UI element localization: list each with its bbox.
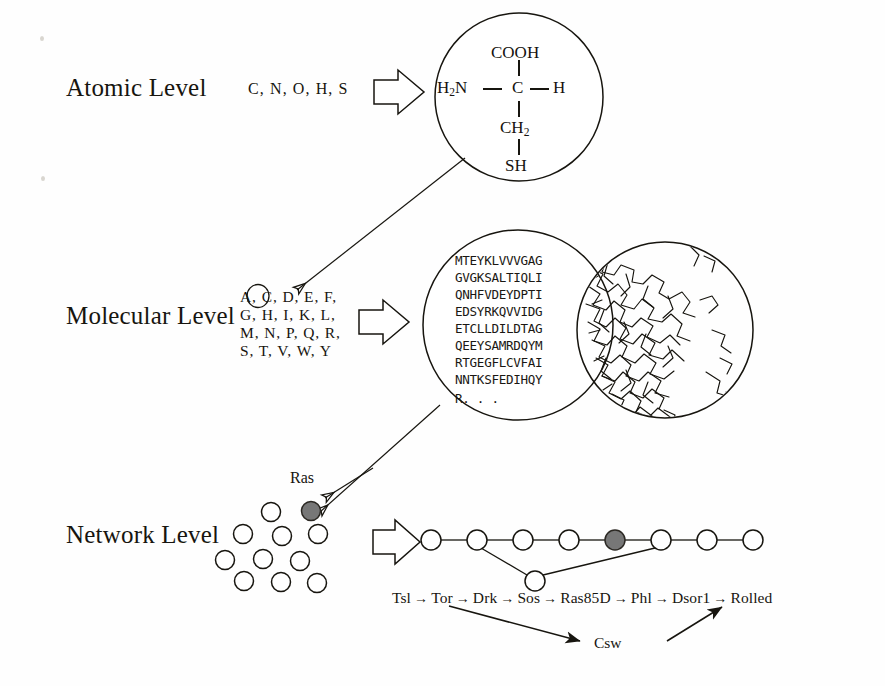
protein-sequence-line: MTEYKLVVVGAG — [455, 253, 542, 270]
chain-node — [697, 530, 717, 550]
pathway-gene-csw: Csw — [594, 634, 622, 652]
scatter-node — [309, 525, 328, 544]
chem-label-sh: SH — [505, 156, 527, 176]
scatter-node — [254, 550, 273, 569]
chain-node — [513, 530, 533, 550]
chain-branch-node — [525, 571, 545, 591]
amino-acid-alphabet-line-3: M, N, P, Q, R, — [240, 324, 341, 342]
protein-sequence-line: QEEYSAMRDQYM — [455, 338, 542, 355]
block-arrow-atomic — [374, 70, 424, 114]
pathway-arrow-icon: → — [652, 591, 672, 606]
amino-acid-alphabet-line-2: G, H, I, K, L, — [240, 306, 336, 324]
connector-molecular-to-network — [320, 405, 440, 512]
pathway-gene-rolled: Rolled — [730, 589, 772, 606]
pathway-gene-phl: Phl — [631, 589, 652, 606]
chem-label-h2n: H2N — [437, 78, 467, 98]
chain-node-group — [421, 530, 763, 591]
pathway-gene-tor: Tor — [431, 589, 453, 606]
pathway-arrow-icon: → — [453, 591, 473, 606]
chem-label-cooh: COOH — [491, 43, 539, 63]
chain-node — [651, 530, 671, 550]
pathway-arrow-icon: → — [611, 591, 631, 606]
pathway-arrow-icon: → — [710, 591, 730, 606]
pathway-gene-ras85d: Ras85D — [560, 589, 611, 606]
scatter-node — [291, 552, 310, 571]
protein-sequence-line: R. . . — [455, 391, 499, 408]
pathway-branch-arrow-up — [667, 607, 722, 641]
ras-node-label: Ras — [290, 469, 314, 487]
scatter-node — [262, 503, 281, 522]
scatter-node — [272, 573, 291, 592]
chain-node-ras-highlight — [605, 530, 625, 550]
ras-label-pointer — [325, 468, 373, 498]
chain-node — [467, 530, 487, 550]
pathway-branch-arrow-down — [449, 606, 580, 641]
pathway-main: Tsl→Tor→Drk→Sos→Ras85D→Phl→Dsor1→Rolled — [392, 589, 772, 607]
scatter-node — [235, 572, 254, 591]
chain-branch-edge — [481, 548, 527, 575]
level-label-molecular: Molecular Level — [66, 302, 235, 330]
diagram-vector-layer — [0, 0, 885, 686]
protein-sequence-line: RTGEGFLCVFAI — [455, 355, 542, 372]
protein-sequence-line: QNHFVDEYDPTI — [455, 287, 542, 304]
pathway-gene-tsl: Tsl — [392, 589, 411, 606]
scatter-node — [273, 527, 292, 546]
chain-node — [559, 530, 579, 550]
scatter-node — [216, 551, 235, 570]
chem-label-ch2: CH2 — [500, 118, 529, 138]
figure-canvas: Atomic Level Molecular Level Network Lev… — [0, 0, 885, 686]
protein-sequence-line: EDSYRKQVVIDG — [455, 304, 542, 321]
protein-sequence-line: ETCLLDILDTAG — [455, 321, 542, 338]
chem-label-carbon: C — [512, 78, 523, 98]
atomic-elements-label: C, N, O, H, S — [248, 80, 349, 98]
pathway-gene-drk: Drk — [473, 589, 497, 606]
chain-node — [421, 530, 441, 550]
block-arrow-molecular — [359, 300, 409, 344]
scatter-node-ras-highlight — [302, 502, 321, 521]
scatter-node — [308, 574, 327, 593]
level-label-atomic: Atomic Level — [66, 74, 207, 102]
pathway-gene-sos: Sos — [517, 589, 540, 606]
pathway-arrow-icon: → — [540, 591, 560, 606]
chain-node — [743, 530, 763, 550]
pathway-arrow-icon: → — [497, 591, 517, 606]
scatter-node — [234, 525, 253, 544]
block-arrow-network — [373, 520, 420, 564]
pathway-gene-dsor1: Dsor1 — [672, 589, 710, 606]
protein-sequence-line: NNTKSFEDIHQY — [455, 372, 542, 389]
amino-acid-alphabet-line-1: A, C, D, E, F, — [240, 288, 337, 306]
amino-acid-alphabet-line-4: S, T, V, W, Y — [240, 342, 332, 360]
chem-label-hydrogen: H — [553, 78, 565, 98]
level-label-network: Network Level — [66, 521, 219, 549]
protein-sequence-line: GVGKSALTIQLI — [455, 270, 542, 287]
pathway-arrow-icon: → — [411, 591, 431, 606]
chain-branch-edge — [543, 548, 655, 575]
